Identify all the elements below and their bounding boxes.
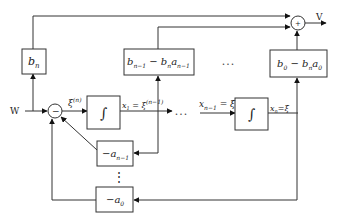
block-diagram: W V − + bn bn−1 − bnan−1 b0 − bna0 ∫ ∫ −… [0,0,344,223]
ellipsis-blocks: • • • [222,61,234,67]
x1-down-line [134,111,158,153]
integral-symbol-2: ∫ [248,106,255,122]
bn-output-line [33,16,290,49]
ellipsis-signal: • • • [175,111,187,117]
sum-left-sign: − [52,106,60,116]
xi-n-label: ξ(n) [68,96,82,108]
output-label: V [315,12,323,22]
sum-right-sign: + [295,20,301,28]
b-n1-output-line [158,27,290,49]
integral-symbol-1: ∫ [100,105,107,121]
ellipsis-vertical: ⋮ [113,170,125,184]
input-label: W [10,106,20,116]
xn-label: xn=ξ [270,104,289,114]
neg-a0-feedback [52,119,96,200]
xn1-label: xn−1 = ξ̇ [199,99,236,111]
